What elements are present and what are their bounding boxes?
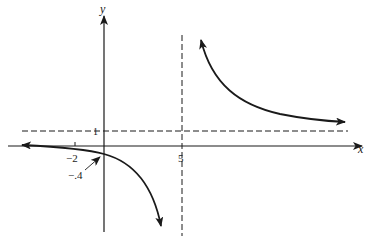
- y-axis-label: y: [99, 2, 106, 16]
- tick-label-neg2: −2: [66, 152, 78, 164]
- y-intercept-pointer: [85, 157, 100, 170]
- tick-label-1: 1: [93, 126, 98, 137]
- rational-function-graph: x y 1 5 −2 −.4: [0, 0, 370, 242]
- right-branch-curve: [201, 40, 345, 122]
- left-branch-curve: [22, 145, 161, 226]
- x-axis-label: x: [357, 142, 364, 156]
- tick-label-5: 5: [178, 152, 184, 164]
- y-intercept-label: −.4: [68, 169, 83, 181]
